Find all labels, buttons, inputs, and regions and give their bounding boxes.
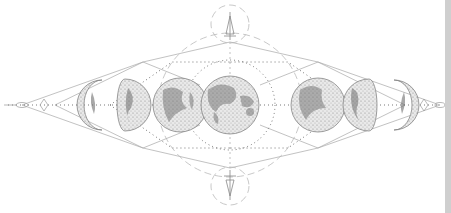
moon-waxing-crescent <box>77 80 102 130</box>
moon-phases-illustration <box>0 0 451 213</box>
moon-last-quarter <box>343 79 377 131</box>
moon-first-quarter <box>117 79 151 131</box>
left-ornament <box>4 99 48 111</box>
edge-strip <box>445 0 451 213</box>
moon-waning-gibbous <box>291 78 345 132</box>
top-ornament <box>224 12 236 40</box>
moon-waning-crescent <box>394 80 419 130</box>
moon-full <box>201 76 259 134</box>
bottom-ornament <box>224 170 236 200</box>
moon-waxing-gibbous <box>153 78 207 132</box>
